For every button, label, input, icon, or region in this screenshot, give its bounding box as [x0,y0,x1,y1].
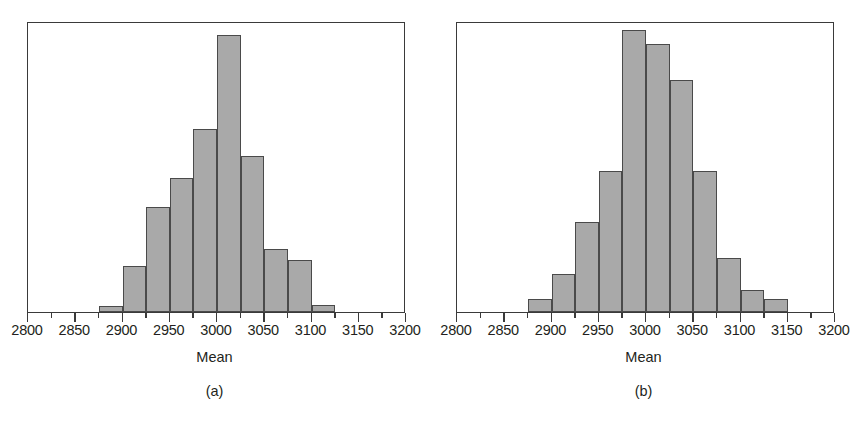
x-axis-title-a: Mean [0,349,453,365]
x-tick-minor [334,313,335,318]
x-tick-label: 3050 [248,322,279,338]
x-tick-minor [192,313,193,318]
x-tick-label: 2950 [153,322,184,338]
x-tick-major [692,313,693,322]
x-tick-label: 3000 [200,322,231,338]
histogram-bar [717,258,741,312]
x-tick-label: 2900 [535,322,566,338]
x-tick-major [456,313,457,322]
histogram-bar [670,80,694,312]
plot-area-b [456,22,834,313]
histogram-bar [528,299,552,312]
histogram-bar [193,129,217,312]
histogram-figure: 280028502900295030003050310031503200 Mea… [0,0,858,424]
panel-caption-b: (b) [429,383,858,399]
x-tick-minor [669,313,670,318]
x-tick-major [263,313,264,322]
histogram-bar [764,299,788,312]
x-tick-minor [621,313,622,318]
x-tick-major [503,313,504,322]
x-tick-major [74,313,75,322]
x-tick-major [358,313,359,322]
histogram-bar [741,290,765,312]
x-tick-label: 3050 [677,322,708,338]
histogram-bar [264,249,288,312]
x-tick-minor [287,313,288,318]
x-tick-major [834,313,835,322]
x-tick-label: 3100 [724,322,755,338]
x-tick-major [787,313,788,322]
x-tick-major [27,313,28,322]
x-tick-label: 3000 [629,322,660,338]
x-tick-major [405,313,406,322]
histogram-bar [599,171,623,313]
panel-b: 280028502900295030003050310031503200 Mea… [429,0,858,424]
x-tick-label: 2850 [59,322,90,338]
histogram-bar [241,156,265,312]
histogram-bar [622,30,646,312]
histogram-bar [99,306,123,312]
histogram-bar [146,207,170,312]
x-tick-major [645,313,646,322]
histogram-bar [646,44,670,312]
x-tick-label: 3150 [771,322,802,338]
panel-caption-a: (a) [0,383,453,399]
x-tick-label: 2850 [488,322,519,338]
plot-area-a [27,22,405,313]
x-tick-minor [763,313,764,318]
x-tick-major [740,313,741,322]
x-tick-label: 2800 [11,322,42,338]
x-tick-minor [145,313,146,318]
x-tick-minor [51,313,52,318]
x-tick-label: 3200 [389,322,420,338]
x-tick-label: 3200 [818,322,849,338]
histogram-bar [217,35,241,312]
x-tick-label: 2900 [106,322,137,338]
histogram-bar [552,274,576,312]
x-tick-minor [480,313,481,318]
x-tick-minor [381,313,382,318]
panel-a: 280028502900295030003050310031503200 Mea… [0,0,429,424]
x-tick-major [598,313,599,322]
bars-layer-b [457,23,833,312]
x-tick-label: 3100 [295,322,326,338]
histogram-bar [312,305,336,312]
x-tick-minor [716,313,717,318]
x-tick-minor [574,313,575,318]
x-tick-major [216,313,217,322]
x-tick-labels-a: 280028502900295030003050310031503200 [0,322,429,342]
x-tick-major [311,313,312,322]
x-tick-major [169,313,170,322]
x-tick-minor [98,313,99,318]
histogram-bar [123,266,147,312]
x-tick-label: 2800 [440,322,471,338]
histogram-bar [170,178,194,312]
histogram-bar [693,171,717,313]
x-tick-major [551,313,552,322]
x-tick-label: 2950 [582,322,613,338]
bars-layer-a [28,23,404,312]
x-tick-minor [240,313,241,318]
histogram-bar [288,260,312,312]
histogram-bar [575,222,599,312]
x-tick-minor [810,313,811,318]
x-tick-label: 3150 [342,322,373,338]
x-tick-minor [527,313,528,318]
x-axis-title-b: Mean [429,349,858,365]
x-tick-major [122,313,123,322]
x-tick-labels-b: 280028502900295030003050310031503200 [429,322,858,342]
